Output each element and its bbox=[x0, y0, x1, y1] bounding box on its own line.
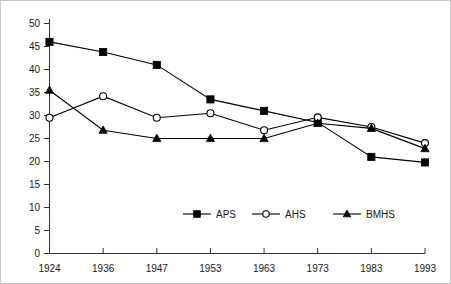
y-tick-label: 10 bbox=[29, 202, 41, 213]
y-tick-label: 0 bbox=[34, 248, 40, 259]
marker-open-circle bbox=[263, 211, 269, 217]
y-tick-label: 50 bbox=[29, 18, 41, 29]
y-tick-label: 30 bbox=[29, 110, 41, 121]
legend-item-bmhs: BMHS bbox=[333, 209, 395, 220]
y-axis-ticks: 05101520253035404550 bbox=[29, 18, 50, 259]
line-chart: 05101520253035404550 1924193619471953196… bbox=[1, 1, 451, 284]
x-tick-label: 1953 bbox=[199, 263, 222, 274]
series-line bbox=[50, 96, 426, 143]
x-tick-label: 1947 bbox=[146, 263, 169, 274]
marker-filled-square bbox=[100, 48, 107, 55]
marker-filled-square bbox=[421, 159, 428, 166]
marker-filled-triangle bbox=[343, 210, 351, 217]
x-tick-label: 1973 bbox=[307, 263, 330, 274]
marker-filled-square bbox=[207, 96, 214, 103]
y-tick-label: 20 bbox=[29, 156, 41, 167]
marker-filled-square bbox=[194, 211, 201, 218]
marker-filled-triangle bbox=[206, 134, 214, 141]
series-line bbox=[50, 42, 426, 163]
legend-item-aps: APS bbox=[183, 209, 236, 220]
y-tick-label: 35 bbox=[29, 87, 41, 98]
y-tick-label: 25 bbox=[29, 133, 41, 144]
x-tick-label: 1983 bbox=[360, 263, 383, 274]
legend-label: AHS bbox=[285, 209, 306, 220]
marker-filled-square bbox=[153, 61, 160, 68]
y-tick-label: 40 bbox=[29, 64, 41, 75]
marker-open-circle bbox=[207, 110, 214, 117]
marker-open-circle bbox=[46, 114, 53, 121]
legend-label: APS bbox=[216, 209, 236, 220]
y-tick-label: 5 bbox=[34, 225, 40, 236]
marker-filled-square bbox=[260, 107, 267, 114]
y-tick-label: 45 bbox=[29, 41, 41, 52]
marker-open-circle bbox=[100, 93, 107, 100]
data-series-layer bbox=[45, 38, 429, 166]
x-tick-label: 1963 bbox=[253, 263, 276, 274]
chart-figure: 05101520253035404550 1924193619471953196… bbox=[0, 0, 451, 284]
marker-filled-triangle bbox=[45, 86, 53, 93]
marker-open-circle bbox=[261, 127, 268, 134]
marker-filled-square bbox=[368, 153, 375, 160]
y-tick-label: 15 bbox=[29, 179, 41, 190]
x-tick-label: 1924 bbox=[38, 263, 61, 274]
marker-open-circle bbox=[153, 114, 160, 121]
x-tick-label: 1936 bbox=[92, 263, 115, 274]
marker-filled-square bbox=[46, 38, 53, 45]
legend-item-ahs: AHS bbox=[252, 209, 306, 220]
x-tick-label: 1993 bbox=[414, 263, 437, 274]
x-axis-ticks: 19241936194719531963197319831993 bbox=[38, 248, 436, 274]
series-aps bbox=[46, 38, 429, 166]
marker-filled-triangle bbox=[99, 126, 107, 133]
chart-legend: APSAHSBMHS bbox=[183, 209, 395, 220]
legend-label: BMHS bbox=[366, 209, 395, 220]
